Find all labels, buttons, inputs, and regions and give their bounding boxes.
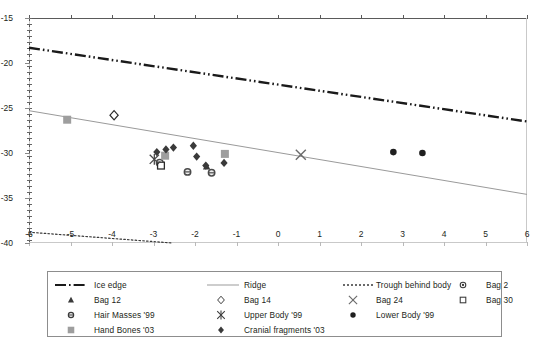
data-point-lower-body-99	[419, 150, 426, 157]
diamond-filled-icon	[198, 323, 244, 337]
x-axis-tick-label: -2	[191, 229, 199, 239]
x-star-icon	[198, 308, 244, 322]
data-point-upper-body-99	[150, 154, 159, 165]
legend-label: Bag 2	[486, 280, 508, 290]
legend-item-trough-behind-body[interactable]: Trough behind body	[330, 277, 440, 292]
data-point-cranial-fragments-03	[193, 152, 200, 160]
data-point-cranial-fragments-03	[190, 142, 197, 150]
legend-item-empty	[330, 322, 440, 337]
series-line-ridge	[29, 111, 527, 195]
data-layer	[29, 18, 527, 243]
chart-legend: Ice edgeRidgeTrough behind bodyBag 2Bag …	[47, 271, 502, 337]
legend-row: Bag 12Bag 14Bag 24Bag 30	[48, 292, 501, 307]
data-point-bag-14	[110, 111, 118, 120]
y-axis-tick-label: -25	[1, 103, 13, 113]
legend-item-ridge[interactable]: Ridge	[198, 277, 330, 292]
legend-label: Lower Body '99	[376, 310, 434, 320]
legend-label: Cranial fragments '03	[244, 325, 325, 335]
y-tick	[25, 243, 30, 244]
legend-label: Ridge	[244, 280, 266, 290]
legend-row: Ice edgeRidgeTrough behind bodyBag 2	[48, 277, 501, 292]
legend-item-bag-14[interactable]: Bag 14	[198, 292, 330, 307]
circle-small-icon	[48, 308, 94, 322]
line-dotted-icon	[330, 278, 376, 292]
x-axis-tick-label: 5	[483, 229, 488, 239]
legend-item-cranial-fragments-03[interactable]: Cranial fragments '03	[198, 322, 330, 337]
x-axis-tick-label: -3	[150, 229, 158, 239]
x-axis-tick-label: 2	[359, 229, 364, 239]
plot-area	[29, 18, 527, 243]
square-open-icon	[440, 293, 486, 307]
x-axis-tick-label: 0	[276, 229, 281, 239]
data-point-cranial-fragments-03	[170, 143, 177, 151]
circle-dot-icon	[440, 278, 486, 292]
x-axis-tick-label: 4	[442, 229, 447, 239]
series-line-ice-edge	[29, 48, 527, 122]
circle-filled-icon	[330, 308, 376, 322]
data-point-hand-bones-03	[161, 152, 169, 160]
legend-item-bag-12[interactable]: Bag 12	[48, 292, 198, 307]
legend-item-bag-30[interactable]: Bag 30	[440, 292, 500, 307]
legend-item-upper-body-99[interactable]: Upper Body '99	[198, 307, 330, 322]
line-dash-dot-icon	[48, 278, 94, 292]
legend-label: Hand Bones '03	[94, 325, 154, 335]
y-axis-tick-label: -40	[1, 238, 13, 248]
x-thin-icon	[330, 293, 376, 307]
data-point-cranial-fragments-03	[220, 159, 227, 167]
legend-label: Ice edge	[94, 280, 127, 290]
legend-label: Upper Body '99	[244, 310, 302, 320]
line-solid-gray-icon	[198, 278, 244, 292]
y-axis-tick-label: -20	[1, 58, 13, 68]
legend-item-empty	[440, 322, 500, 337]
y-axis-tick-label: -30	[1, 148, 13, 158]
x-axis-tick-label: -6	[25, 229, 33, 239]
chart-page: -15-20-25-30-35-40 -6-5-4-3-2-10123456 I…	[0, 0, 547, 347]
x-tick	[527, 15, 528, 19]
plot-container: -15-20-25-30-35-40 -6-5-4-3-2-10123456	[0, 0, 547, 262]
data-point-hair-masses-99	[208, 170, 214, 176]
legend-label: Bag 12	[94, 295, 121, 305]
legend-item-hair-masses-99[interactable]: Hair Masses '99	[48, 307, 198, 322]
legend-label: Hair Masses '99	[94, 310, 155, 320]
legend-item-hand-bones-03[interactable]: Hand Bones '03	[48, 322, 198, 337]
legend-label: Bag 30	[486, 295, 513, 305]
legend-row: Hair Masses '99Upper Body '99Lower Body …	[48, 307, 501, 322]
data-point-hair-masses-99	[184, 169, 190, 175]
triangle-icon	[48, 293, 94, 307]
data-point-lower-body-99	[390, 149, 397, 156]
x-axis-tick-label: 6	[525, 229, 530, 239]
x-axis-tick-label: 1	[317, 229, 322, 239]
x-axis-tick-label: -4	[108, 229, 116, 239]
legend-label: Bag 14	[244, 295, 271, 305]
legend-item-bag-24[interactable]: Bag 24	[330, 292, 440, 307]
x-axis-tick-label: -1	[233, 229, 241, 239]
legend-item-bag-2[interactable]: Bag 2	[440, 277, 500, 292]
x-axis-tick-label: -5	[67, 229, 75, 239]
diamond-open-icon	[198, 293, 244, 307]
legend-item-lower-body-99[interactable]: Lower Body '99	[330, 307, 440, 322]
legend-label: Bag 24	[376, 295, 403, 305]
data-point-hand-bones-03	[63, 116, 71, 124]
legend-row: Hand Bones '03Cranial fragments '03	[48, 322, 501, 337]
data-point-bag-24	[296, 150, 306, 160]
data-point-hand-bones-03	[221, 150, 229, 158]
square-gray-icon	[48, 323, 94, 337]
y-axis-tick-label: -35	[1, 193, 13, 203]
legend-item-ice-edge[interactable]: Ice edge	[48, 277, 198, 292]
x-tick	[527, 242, 528, 246]
x-axis-tick-label: 3	[400, 229, 405, 239]
legend-item-empty	[440, 307, 500, 322]
y-axis-tick-label: -15	[1, 13, 13, 23]
